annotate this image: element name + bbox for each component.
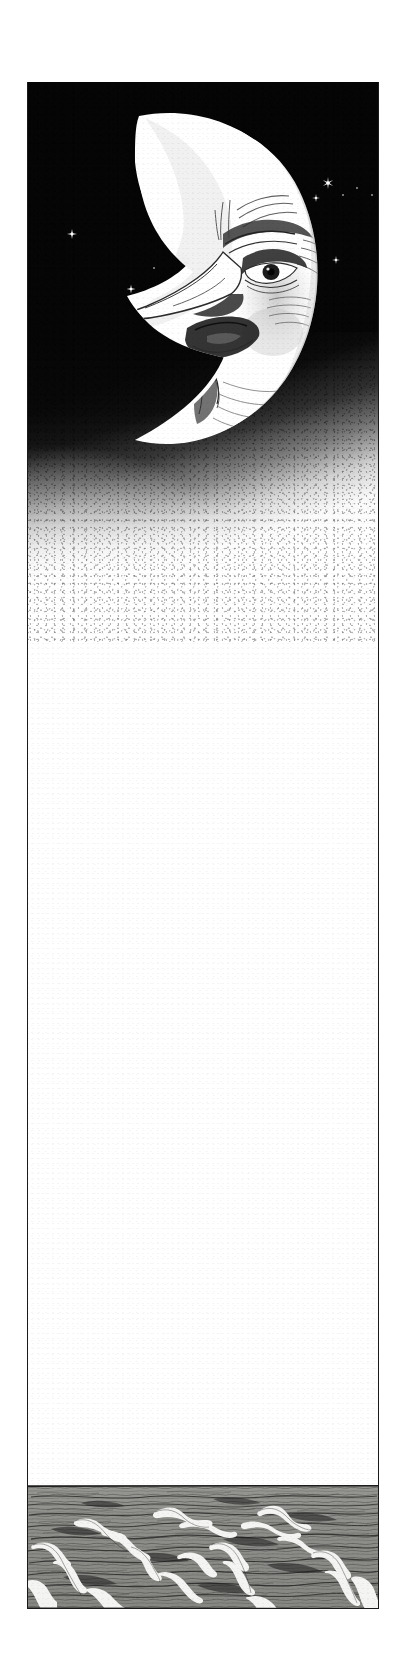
blank-white-expanse xyxy=(27,642,379,1485)
crescent-moon-with-face xyxy=(27,82,379,642)
stormy-sea xyxy=(27,1485,379,1609)
illustration-canvas xyxy=(0,0,412,1672)
horizon-line xyxy=(27,1486,379,1487)
framed-illustration-panel xyxy=(27,82,379,1609)
eye-highlight xyxy=(266,268,269,271)
